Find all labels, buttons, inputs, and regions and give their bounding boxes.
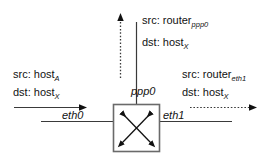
packet-outgoing-eth1-dst-subscript: X [224,92,229,101]
packet-incoming-eth0-dst-subscript: X [55,92,60,101]
packet-outgoing-eth1-dst: dst: hostX [182,87,229,98]
packet-outgoing-ppp0-src-subscript: ppp0 [192,20,209,29]
interface-label-eth0: eth0 [62,110,83,121]
packet-outgoing-ppp0-src-prefix: src: [142,14,160,26]
interface-label-eth1: eth1 [163,110,184,121]
packet-outgoing-ppp0-src: src: routerppp0 [142,15,208,26]
packet-outgoing-ppp0-dst-value: host [163,36,184,48]
packet-outgoing-eth1-src: src: routereth1 [182,69,246,80]
packet-incoming-eth0-src-value: host [34,68,55,80]
packet-outgoing-ppp0-dst: dst: hostX [142,37,189,48]
packet-incoming-eth0-src-prefix: src: [13,68,31,80]
packet-outgoing-eth1-dst-value: host [203,86,224,98]
interface-label-ppp0: ppp0 [131,86,155,97]
packet-outgoing-ppp0-dst-prefix: dst: [142,36,160,48]
packet-incoming-eth0-src: src: hostA [13,69,60,80]
packet-outgoing-eth1-src-prefix: src: [182,68,200,80]
packet-outgoing-eth1-dst-prefix: dst: [182,86,200,98]
packet-outgoing-ppp0-dst-subscript: X [184,42,189,51]
packet-incoming-eth0-dst-value: host [34,86,55,98]
packet-outgoing-eth1-src-subscript: eth1 [232,74,247,83]
packet-outgoing-ppp0-src-value: router [163,14,192,26]
packet-incoming-eth0-dst: dst: hostX [13,87,60,98]
packet-incoming-eth0-src-subscript: A [55,74,60,83]
diagram-canvas: src: hostA dst: hostX src: routerppp0 ds… [0,0,269,158]
packet-incoming-eth0-dst-prefix: dst: [13,86,31,98]
packet-outgoing-eth1-src-value: router [203,68,232,80]
